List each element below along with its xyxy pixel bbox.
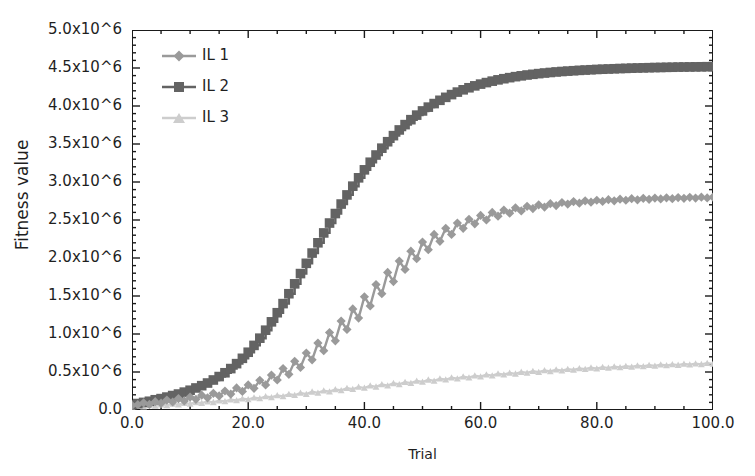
legend-marker-diamond-icon	[160, 48, 198, 64]
x-axis-tick-label: 40.0	[348, 416, 381, 431]
y-axis-tick-label: 5.0x10^6	[48, 22, 122, 37]
chart-figure: 0.00.5x10^61.0x10^61.5x10^62.0x10^62.5x1…	[0, 0, 755, 476]
legend-entry-il-2: IL 2	[160, 71, 270, 102]
legend-label-il-1: IL 1	[202, 48, 229, 63]
x-axis-tick-label: 0.0	[120, 416, 144, 431]
y-axis-tick-label: 1.5x10^6	[48, 288, 122, 303]
y-axis-tick-label: 2.0x10^6	[48, 250, 122, 265]
y-axis-tick-label: 2.5x10^6	[48, 212, 122, 227]
chart-legend: IL 1 IL 2 IL 3	[160, 40, 270, 133]
y-axis-tick-label: 1.0x10^6	[48, 326, 122, 341]
legend-marker-square-icon	[160, 79, 198, 95]
y-axis-tick-label: 0.5x10^6	[48, 364, 122, 379]
y-axis-tick-label: 4.5x10^6	[48, 60, 122, 75]
y-axis-tick-label: 4.0x10^6	[48, 98, 122, 113]
y-axis-tick-label: 3.5x10^6	[48, 136, 122, 151]
legend-label-il-3: IL 3	[202, 110, 229, 125]
x-axis-tick-label: 20.0	[231, 416, 264, 431]
legend-label-il-2: IL 2	[202, 79, 229, 94]
legend-marker-triangle-icon	[160, 110, 198, 126]
x-axis-tick-label: 100.0	[692, 416, 735, 431]
y-axis-title: Fitness value	[12, 115, 32, 275]
legend-entry-il-1: IL 1	[160, 40, 270, 71]
y-axis-tick-label: 0.0	[98, 402, 122, 417]
y-axis-tick-label: 3.0x10^6	[48, 174, 122, 189]
data-series-il-3	[132, 360, 713, 410]
x-axis-title: Trial	[132, 446, 713, 462]
legend-entry-il-3: IL 3	[160, 102, 270, 133]
x-axis-tick-label: 60.0	[464, 416, 497, 431]
x-axis-tick-label: 80.0	[580, 416, 613, 431]
